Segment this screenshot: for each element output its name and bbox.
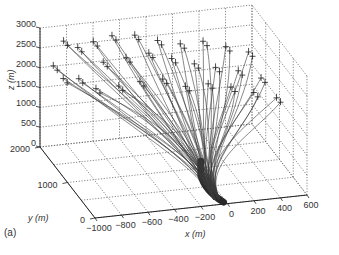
tick-label: 0: [229, 209, 234, 219]
tick-label: 2500: [16, 39, 36, 49]
tick-label: 1500: [16, 79, 36, 89]
tick-label: −800: [115, 220, 135, 230]
tick-label: 2000: [16, 59, 36, 69]
trajectory-line: [215, 97, 258, 199]
trajectory-line: [53, 66, 213, 200]
tick-label: 200: [250, 206, 265, 216]
tick-label: 0: [31, 138, 36, 148]
tick-label: 1000: [37, 180, 57, 190]
trajectory-bundle: [50, 31, 283, 202]
tick-label: −400: [168, 214, 188, 224]
tick-label: 600: [303, 200, 318, 210]
trajectory-line: [96, 89, 215, 200]
trajectory-line: [211, 98, 276, 200]
tick-label: −600: [142, 217, 162, 227]
tick-label: 2000: [10, 144, 30, 154]
tick-label: 1000: [16, 98, 36, 108]
trajectory-3d-plot: 050010001500200025003000010002000−1000−8…: [0, 0, 339, 255]
tick-label: 0: [80, 215, 85, 225]
axes: [35, 27, 309, 221]
z-axis-label: z (m): [6, 70, 16, 92]
tick-label: −200: [195, 212, 215, 222]
panel-label: (a): [4, 227, 16, 238]
tick-label: 3000: [16, 19, 36, 29]
y-axis-label: y (m): [27, 213, 49, 223]
tick-label: 400: [277, 203, 292, 213]
tick-label: 500: [21, 118, 36, 128]
grid-lines: [40, 5, 307, 218]
x-axis-label: x (m): [184, 229, 206, 239]
trajectory-line: [64, 41, 215, 199]
tick-label: −1000: [86, 223, 111, 233]
